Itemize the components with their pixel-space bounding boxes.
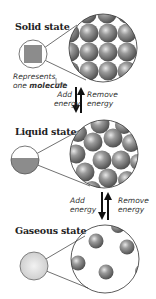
gaseous-state-title: Gaseous state: [15, 225, 86, 236]
liquid-sample-fill: [10, 158, 40, 176]
solid-sample-swatch: [24, 45, 42, 63]
remove-energy-label-2: Remove energy: [118, 196, 149, 214]
legend-line2: one molecule: [13, 81, 67, 90]
diagram-graphics: [0, 0, 156, 299]
add-energy-label-1: Add energy: [54, 90, 72, 108]
remove-energy-label-1: Remove energy: [87, 90, 118, 108]
gas-sample-circle: [20, 252, 48, 280]
legend-label: Represents one molecule: [13, 72, 67, 90]
liquid-molecules: [67, 115, 147, 200]
liquid-state-title: Liquid state: [15, 126, 76, 137]
states-of-matter-diagram: Solid state Represents one molecule Add …: [0, 0, 156, 299]
solid-state-title: Solid state: [15, 21, 70, 32]
add-energy-label-2: Add energy: [70, 196, 96, 214]
transition-arrows-2: [98, 192, 112, 220]
legend-bold-word: molecule: [29, 81, 67, 90]
legend-line1: Represents: [13, 72, 67, 81]
solid-molecules: [61, 5, 137, 81]
